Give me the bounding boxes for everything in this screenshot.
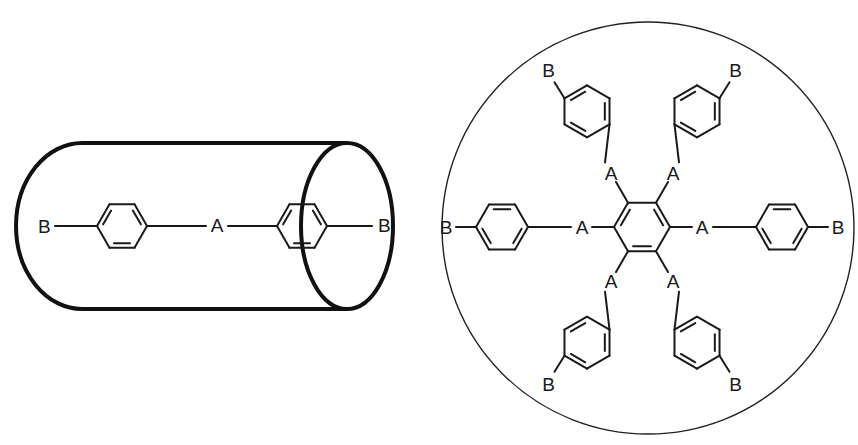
disc-arm-lower-right: AB — [656, 251, 742, 394]
arm-end-label: B — [440, 217, 453, 238]
ring-bond — [277, 226, 290, 248]
arm-bond-ring-b — [554, 356, 564, 372]
ring-bond — [135, 226, 148, 248]
arm-bond-core-a — [616, 182, 628, 203]
arm-end-label: B — [542, 60, 555, 81]
disc-arm-upper-right: AB — [656, 60, 742, 202]
arm-bond-ring-b — [720, 82, 730, 98]
ring-bond — [614, 227, 628, 251]
arm-linker-label: A — [696, 217, 709, 238]
rod-end-label-right: B — [378, 215, 391, 236]
ring-bond — [476, 204, 489, 227]
disc-arm-lower-left: AB — [542, 251, 628, 394]
ring-bond — [587, 356, 610, 369]
arm-bond-core-a — [656, 251, 668, 272]
arm-bond-core-a — [656, 182, 668, 203]
arm-bond-a-ring — [605, 124, 610, 162]
arm-linker-label: A — [605, 271, 618, 292]
disc-arm-right: AB — [670, 204, 844, 249]
arm-bond-ring-b — [720, 356, 730, 372]
ring-bond — [97, 226, 110, 248]
ring-bond — [697, 124, 720, 137]
arm-bond-core-a — [616, 251, 628, 272]
arm-end-label: B — [832, 217, 845, 238]
arm-ring — [756, 204, 808, 249]
ring-bond — [697, 85, 720, 98]
ring-bond — [587, 317, 610, 330]
arm-end-label: B — [542, 374, 555, 395]
ring-bond — [587, 124, 610, 137]
rod-molecule-figure: B A B — [16, 143, 393, 309]
arm-linker-label: A — [667, 163, 680, 184]
disc-arm-left: AB — [440, 204, 614, 249]
disc-envelope-circle — [442, 22, 854, 434]
arm-ring — [476, 204, 528, 249]
ring-bond — [795, 204, 808, 227]
arm-linker-label: A — [667, 271, 680, 292]
ring-bond — [756, 204, 769, 227]
arm-end-label: B — [729, 374, 742, 395]
arm-ring — [674, 317, 719, 369]
arm-linker-label: A — [576, 217, 589, 238]
disc-molecule-figure: ABABABABABAB — [440, 22, 854, 434]
arm-bond-a-ring — [674, 292, 679, 330]
arm-ring — [564, 317, 609, 369]
ring-bond — [515, 204, 528, 227]
arm-bond-a-ring — [674, 124, 679, 162]
rod-ring-left — [97, 204, 147, 247]
disc-arm-upper-left: AB — [542, 60, 628, 202]
arm-linker-label: A — [605, 163, 618, 184]
ring-bond — [697, 317, 720, 330]
ring-bond — [315, 226, 328, 248]
arm-bond-ring-b — [554, 82, 564, 98]
arm-ring — [674, 85, 719, 137]
arm-bond-a-ring — [605, 292, 610, 330]
ring-bond — [587, 85, 610, 98]
ring-bond — [656, 227, 670, 251]
rod-linker-label: A — [211, 215, 224, 236]
disc-core-benzene — [614, 203, 670, 251]
arm-ring — [564, 85, 609, 137]
diagram-canvas: B A B ABABABABABAB — [0, 0, 858, 445]
rod-end-label-left: B — [38, 216, 51, 237]
ring-bond — [697, 356, 720, 369]
arm-end-label: B — [729, 60, 742, 81]
